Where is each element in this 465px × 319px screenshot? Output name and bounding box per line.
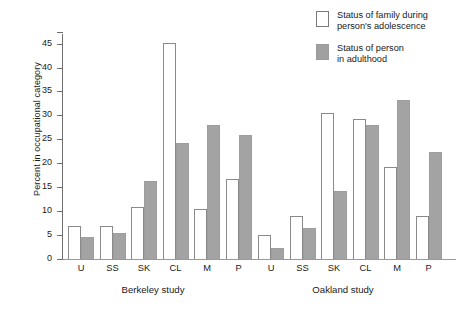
group-label-oakland: Oakland study [268, 284, 418, 295]
legend-label-family: Status of family during person's adolesc… [337, 10, 428, 31]
bar-oakland-U-open [258, 235, 271, 259]
plot-area [62, 34, 456, 259]
bar-oakland-SS-fill [303, 228, 316, 259]
chart-figure: Status of family during person's adolesc… [0, 0, 465, 319]
y-tick-label: 15 [16, 181, 52, 191]
y-tick-label: 10 [16, 205, 52, 215]
bar-oakland-SS-open [290, 216, 303, 259]
bar-berkeley-CL-open [163, 43, 176, 259]
legend-item-family: Status of family during person's adolesc… [316, 10, 461, 31]
bar-oakland-SK-open [321, 113, 334, 259]
y-tick-label: 25 [16, 133, 52, 143]
y-tick-label: 0 [16, 253, 52, 263]
bar-oakland-SK-fill [334, 191, 347, 259]
bar-oakland-CL-fill [366, 125, 379, 259]
y-tick-label: 45 [16, 38, 52, 48]
bar-berkeley-CL-fill [176, 143, 189, 259]
bar-berkeley-SK-open [131, 207, 144, 259]
y-tick-label: 30 [16, 109, 52, 119]
bar-berkeley-U-open [68, 226, 81, 260]
y-tick-mark [57, 259, 63, 260]
y-tick-label: 5 [16, 229, 52, 239]
bar-oakland-M-open [384, 167, 397, 259]
y-axis-title: Percent in occupational category [32, 29, 42, 229]
bar-berkeley-M-fill [207, 125, 220, 259]
bar-berkeley-M-open [194, 209, 207, 259]
y-tick-label: 40 [16, 62, 52, 72]
bar-berkeley-P-fill [239, 135, 252, 259]
bar-oakland-CL-open [353, 119, 366, 259]
legend-swatch-open-icon [316, 11, 329, 27]
y-tick-label: 20 [16, 157, 52, 167]
bar-berkeley-U-fill [81, 237, 94, 259]
bar-oakland-U-fill [271, 248, 284, 259]
y-tick-label: 35 [16, 85, 52, 95]
y-tick-mark [57, 32, 63, 33]
bar-berkeley-P-open [226, 179, 239, 259]
group-label-berkeley: Berkeley study [78, 284, 228, 295]
bar-oakland-M-fill [397, 100, 410, 259]
x-axis-line [62, 259, 456, 260]
bar-oakland-P-fill [429, 152, 442, 259]
bar-oakland-P-open [416, 216, 429, 259]
bar-berkeley-SK-fill [144, 181, 157, 259]
bar-berkeley-SS-open [100, 226, 113, 260]
bar-berkeley-SS-fill [113, 233, 126, 259]
x-tick-label-oakland-P: P [409, 263, 449, 273]
